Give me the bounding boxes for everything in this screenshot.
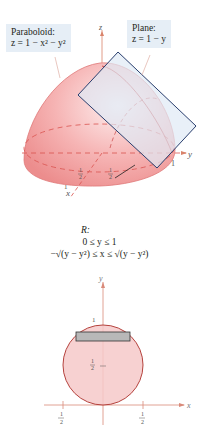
- representative-strip: [76, 332, 130, 341]
- plane-equation: z = 1 − y: [132, 34, 166, 45]
- svg-text:1: 1: [141, 411, 144, 417]
- svg-text:1: 1: [92, 316, 96, 324]
- svg-text:1: 1: [64, 183, 68, 191]
- plane-label-title: Plane:: [132, 23, 166, 34]
- region-2d-figure: y x 1 1 2 1 2 1 2: [0, 270, 199, 425]
- svg-text:2: 2: [60, 419, 63, 425]
- svg-text:1: 1: [171, 159, 175, 168]
- svg-text:1: 1: [60, 411, 63, 417]
- svg-text:1: 1: [109, 167, 112, 173]
- svg-text:1: 1: [79, 167, 82, 173]
- svg-text:2: 2: [79, 174, 82, 180]
- svg-text:2: 2: [91, 365, 94, 371]
- region-description: R: 0 ≤ y ≤ 1 −√(y − y²) ≤ x ≤ √(y − y²): [0, 224, 199, 260]
- svg-text:x: x: [186, 401, 191, 410]
- svg-text:y: y: [187, 149, 192, 159]
- svg-text:2: 2: [109, 174, 112, 180]
- svg-text:y: y: [98, 274, 103, 283]
- paraboloid-equation: z = 1 − x² − y²: [11, 38, 66, 49]
- region-x-bounds: −√(y − y²) ≤ x ≤ √(y − y²): [0, 248, 199, 260]
- plane-label: Plane: z = 1 − y: [127, 20, 171, 48]
- region-title: R:: [0, 224, 199, 236]
- region-y-bounds: 0 ≤ y ≤ 1: [0, 236, 199, 248]
- paraboloid-label: Paraboloid: z = 1 − x² − y²: [6, 24, 71, 52]
- svg-text:2: 2: [141, 419, 144, 425]
- paraboloid-label-title: Paraboloid:: [11, 27, 66, 38]
- svg-text:1: 1: [91, 358, 94, 364]
